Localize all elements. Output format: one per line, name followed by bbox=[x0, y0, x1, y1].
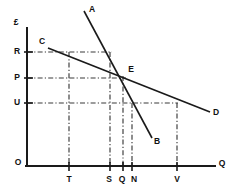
quantity-label-V: V bbox=[174, 174, 180, 184]
axes bbox=[26, 28, 215, 166]
x-axis-title: Q bbox=[219, 158, 226, 168]
price-guide-lines bbox=[27, 52, 178, 103]
demand-curve-CD bbox=[48, 48, 210, 112]
quantity-label-S: S bbox=[106, 174, 112, 184]
demand-label-D: D bbox=[213, 107, 219, 117]
origin-label: O bbox=[15, 157, 22, 167]
supply-demand-figure: £ Q O R P U T S Q N V A B C D E bbox=[0, 0, 238, 189]
equilibrium-label-E: E bbox=[128, 64, 134, 74]
quantity-label-Q: Q bbox=[119, 174, 126, 184]
price-label-R: R bbox=[14, 46, 20, 56]
y-axis-title: £ bbox=[14, 17, 19, 27]
price-label-P: P bbox=[14, 72, 20, 82]
demand-label-C: C bbox=[39, 36, 45, 46]
supply-label-A: A bbox=[89, 4, 95, 14]
quantity-label-N: N bbox=[131, 174, 137, 184]
diagram-canvas: £ Q O R P U T S Q N V A B C D E bbox=[0, 0, 238, 189]
price-label-U: U bbox=[14, 97, 20, 107]
quantity-guide-lines bbox=[69, 52, 177, 165]
supply-curve-AB bbox=[84, 11, 152, 138]
y-axis-ticks bbox=[24, 52, 33, 103]
curves bbox=[48, 11, 210, 138]
quantity-label-T: T bbox=[66, 174, 72, 184]
supply-label-B: B bbox=[154, 136, 160, 146]
